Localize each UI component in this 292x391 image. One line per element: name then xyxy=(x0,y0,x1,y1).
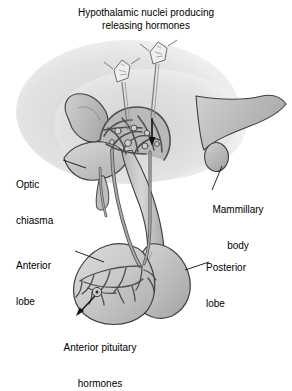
label-optic-chiasma-line-2: chiasma xyxy=(16,215,53,227)
label-anterior-pituitary-hormones-line-2: hormones xyxy=(20,378,180,390)
label-posterior-lobe-line-2: lobe xyxy=(206,298,246,310)
figure-title: Hypothalamic nuclei producing releasing … xyxy=(0,6,292,32)
figure-title-line-1: Hypothalamic nuclei producing xyxy=(0,6,292,19)
label-anterior-pituitary-hormones-line-1: Anterior pituitary xyxy=(20,342,180,354)
label-anterior-pituitary-hormones: Anterior pituitary hormones xyxy=(20,318,180,391)
anterior-lobe xyxy=(74,244,155,325)
label-mammillary-body-line-1: Mammillary xyxy=(190,204,286,216)
label-posterior-lobe-line-1: Posterior xyxy=(206,262,246,274)
label-anterior-lobe-line-1: Anterior xyxy=(16,260,51,272)
label-posterior-lobe: Posterior lobe xyxy=(206,238,246,334)
label-optic-chiasma-line-1: Optic xyxy=(16,179,53,191)
mammillary-body xyxy=(205,143,229,172)
label-anterior-lobe-line-2: lobe xyxy=(16,296,51,308)
figure-title-line-2: releasing hormones xyxy=(0,19,292,32)
